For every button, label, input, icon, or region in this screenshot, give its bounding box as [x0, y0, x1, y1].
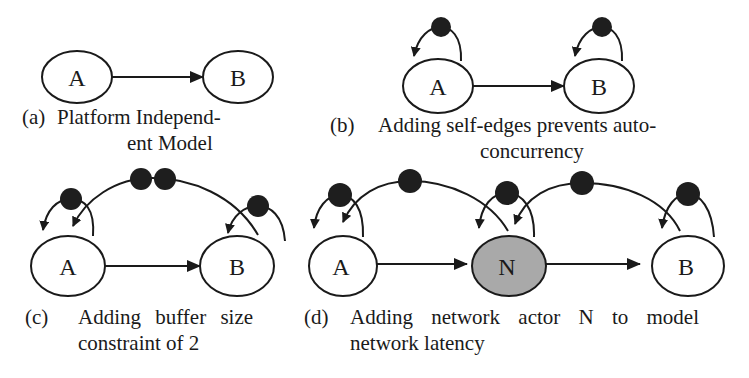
caption-line-1: Adding self-edges prevents auto- [378, 112, 656, 138]
node-b: B [203, 51, 273, 103]
node-b: B [564, 59, 634, 113]
node-label: B [229, 254, 245, 280]
back-edge-b-to-n [515, 183, 680, 231]
token [247, 195, 269, 217]
node-a: A [31, 236, 105, 296]
subfigure-c: A B [31, 168, 285, 296]
caption-line-1: Adding buffer size [78, 304, 253, 330]
back-edge-n-to-a [343, 181, 508, 231]
token [592, 17, 612, 37]
caption-line-1: Adding network actor N to model [350, 304, 699, 330]
token [60, 188, 82, 210]
node-label: A [332, 254, 350, 280]
node-label: A [59, 254, 77, 280]
token [328, 183, 352, 207]
subfigure-d: A N B [309, 169, 724, 296]
node-n: N [472, 236, 546, 296]
node-a: A [309, 236, 377, 296]
caption-tag: (c) [25, 304, 48, 330]
token [398, 169, 422, 193]
caption-tag: (b) [330, 112, 355, 138]
node-label: A [68, 65, 86, 91]
token [154, 168, 176, 190]
node-b: B [652, 236, 724, 296]
caption-line-2: ent Model [127, 130, 213, 156]
subfigure-a: A B [42, 51, 273, 103]
caption-tag: (d) [304, 304, 329, 330]
caption-line-1: Platform Independ- [57, 104, 221, 130]
node-label: B [591, 74, 607, 100]
caption-tag: (a) [22, 104, 45, 130]
node-label: B [230, 65, 246, 91]
token [130, 168, 152, 190]
subfigure-b: A B [403, 17, 634, 113]
node-a: A [42, 51, 112, 103]
token [495, 181, 519, 205]
caption-line-2: constraint of 2 [78, 330, 199, 356]
node-label: N [498, 254, 515, 280]
caption-line-2: concurrency [480, 138, 584, 164]
token [570, 171, 594, 195]
node-b: B [200, 236, 274, 296]
caption-line-2: network latency [350, 330, 485, 356]
token [676, 182, 700, 206]
node-label: A [429, 74, 447, 100]
node-a: A [403, 59, 473, 113]
node-label: B [678, 254, 694, 280]
token [431, 17, 451, 37]
